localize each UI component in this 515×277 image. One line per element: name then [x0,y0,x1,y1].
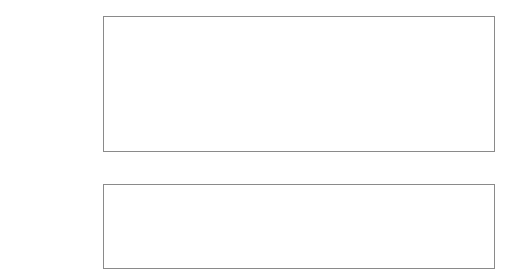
stockperson-group-box [103,16,495,152]
animal-group-box [103,184,495,269]
